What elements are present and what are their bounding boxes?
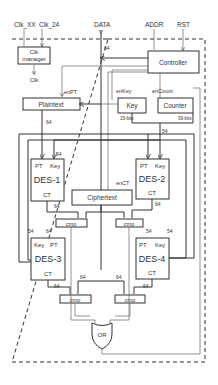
svg-text:64: 64 [155,201,161,207]
data-label: DATA [94,21,111,28]
svg-text:manager: manager [22,56,46,62]
des-2-label: DES-2 [139,174,166,184]
clk-output-label: Clk [30,77,40,83]
des-1-label: DES-1 [34,175,61,185]
addr-label: ADDR [145,21,164,28]
svg-text:Clk: Clk [30,49,40,55]
svg-text:cmp: cmp [70,297,80,303]
clk-24-label: Clk_24 [39,21,60,29]
svg-text:64: 64 [54,203,60,209]
svg-text:PT: PT [140,163,148,169]
svg-text:54: 54 [162,128,168,134]
clk-xx-label: Clk_XX [14,21,36,29]
svg-text:Key: Key [50,163,60,169]
svg-text:Controller: Controller [159,59,188,66]
svg-text:64: 64 [104,45,110,51]
svg-text:64: 64 [46,228,52,234]
svg-text:54: 54 [28,228,34,234]
svg-text:64: 64 [143,283,149,289]
svg-text:cmp: cmp [66,221,76,227]
svg-text:Key: Key [34,242,44,248]
des-architecture-diagram: Clk_XX Clk_24 DATA ADDR RST Clk manager … [0,0,218,385]
svg-text:54: 54 [146,228,152,234]
svg-text:PT: PT [35,163,43,169]
svg-text:enCount: enCount [152,88,173,94]
svg-text:Key: Key [155,163,165,169]
svg-text:CT: CT [44,271,52,277]
svg-text:cmp: cmp [125,297,135,303]
svg-text:cmp: cmp [124,221,134,227]
svg-text:CT: CT [43,192,51,198]
rst-label: RST [177,21,190,28]
svg-text:Plaintext: Plaintext [39,101,64,108]
svg-text:CT: CT [148,270,156,276]
des-4-label: DES-4 [139,254,166,264]
svg-text:enPT: enPT [64,89,78,95]
svg-text:64: 64 [116,274,122,280]
svg-text:54: 54 [167,228,173,234]
svg-text:64: 64 [46,119,52,125]
svg-text:Counter: Counter [163,102,187,109]
svg-text:enCT: enCT [116,180,130,186]
svg-text:enKey: enKey [116,88,132,94]
svg-text:64: 64 [80,274,86,280]
svg-text:54: 54 [56,151,62,157]
svg-text:64: 64 [54,283,60,289]
svg-text:PT: PT [50,242,58,248]
svg-text:39-bits: 39-bits [178,116,192,121]
svg-text:Ciphertext: Ciphertext [87,194,117,202]
svg-text:Key: Key [155,242,165,248]
svg-text:Key: Key [126,102,138,110]
svg-text:OR: OR [98,332,108,338]
des-3-label: DES-3 [35,254,62,264]
svg-text:CT: CT [148,190,156,196]
svg-text:PT: PT [139,242,147,248]
